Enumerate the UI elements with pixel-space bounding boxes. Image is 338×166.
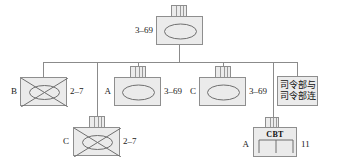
engineer-cbt-label: CBT bbox=[254, 131, 296, 139]
armor-ellipse-icon bbox=[200, 78, 247, 107]
armor-ellipse-icon bbox=[157, 17, 204, 46]
connector-drop-hhc bbox=[297, 62, 298, 76]
unit-b-label-right: 2–7 bbox=[70, 87, 96, 96]
unit-symbol-box: CBT bbox=[253, 127, 297, 157]
hq-staff-tab-icon bbox=[265, 117, 279, 127]
hhc-line-1: 司令部与 bbox=[280, 80, 316, 91]
hq-staff-tab-icon bbox=[171, 5, 187, 16]
unit-symbol-box bbox=[199, 77, 246, 106]
connector-bus bbox=[43, 62, 298, 63]
unit-symbol-box bbox=[73, 127, 120, 156]
unit-a-label-left: A bbox=[98, 87, 111, 96]
connector-drop-b bbox=[43, 62, 44, 77]
unit-engineer-label-right: 11 bbox=[301, 140, 321, 149]
unit-symbol-box bbox=[114, 77, 161, 106]
hq-staff-tab-icon bbox=[215, 66, 231, 77]
unit-c-label-left: C bbox=[184, 87, 196, 96]
hq-staff-tab-icon bbox=[130, 66, 146, 77]
connector-root-stem bbox=[179, 45, 180, 62]
hq-staff-tab-icon bbox=[89, 116, 105, 127]
mechanized-infantry-icon bbox=[21, 78, 68, 107]
unit-c-mech-label-right: 2–7 bbox=[123, 137, 149, 146]
unit-b-label-left: B bbox=[2, 87, 17, 96]
task-organization-diagram: 3–69 B 2–7 A 3–69 bbox=[0, 0, 338, 166]
unit-c-label-right: 3–69 bbox=[249, 87, 279, 96]
hhc-line-2: 司令部连 bbox=[280, 91, 316, 102]
mechanized-infantry-icon bbox=[74, 128, 121, 157]
unit-root-label-left: 3–69 bbox=[117, 26, 153, 35]
unit-c-mech-label-left: C bbox=[57, 137, 69, 146]
armor-ellipse-icon bbox=[115, 78, 162, 107]
unit-symbol-box bbox=[156, 16, 203, 45]
unit-engineer-label-left: A bbox=[236, 140, 249, 149]
hhc-text-box[interactable]: 司令部与 司令部连 bbox=[277, 76, 318, 106]
unit-symbol-box bbox=[20, 77, 67, 106]
